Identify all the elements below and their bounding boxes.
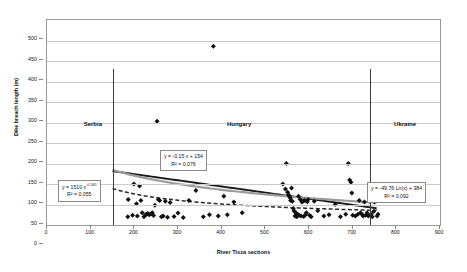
country-label-ukraine: Ukraine — [394, 121, 416, 127]
y-tick-label: 0 — [34, 240, 37, 246]
y-tick-label: 200 — [28, 158, 37, 164]
y-tick-mark — [39, 243, 43, 244]
y-tick-mark — [39, 202, 43, 203]
country-label-hungary: Hungary — [227, 121, 251, 127]
scatter-point — [211, 44, 216, 49]
y-tick-label: 350 — [28, 97, 37, 103]
scatter-point — [240, 210, 245, 215]
y-tick-label: 500 — [28, 35, 37, 41]
gridline — [47, 164, 440, 165]
scatter-point — [126, 197, 131, 202]
scatter-point — [349, 191, 354, 196]
gridline — [47, 82, 440, 83]
equation-annotation-left-box: y = 1510 x-0.565R² = 0.055 — [58, 180, 101, 202]
equation-text: y = -0.15 x + 154 — [164, 153, 203, 159]
y-tick-label: 300 — [28, 117, 37, 123]
y-tick-label: 150 — [28, 179, 37, 185]
gridline — [47, 41, 440, 42]
y-tick-label: 100 — [28, 199, 37, 205]
y-tick-mark — [39, 120, 43, 121]
equation-exponent: -0.565 — [86, 183, 96, 187]
x-tick-label: 0 — [45, 229, 48, 235]
x-tick-label: 400 — [216, 229, 225, 235]
x-tick-label: 600 — [304, 229, 313, 235]
scatter-point — [163, 199, 168, 204]
equation-annotation-middle-box: y = -0.15 x + 154R² = 0.076 — [160, 150, 207, 171]
y-tick-label: 450 — [28, 56, 37, 62]
trendline-linear — [113, 171, 377, 208]
scatter-point — [327, 212, 332, 217]
y-tick-mark — [39, 223, 43, 224]
scatter-point — [165, 215, 170, 220]
scatter-point — [125, 214, 130, 219]
equation-annotation-right-box: y = -49.76 Ln(x) + 384R² = 0.092 — [367, 182, 426, 203]
x-tick-label: 700 — [347, 229, 356, 235]
scatter-point — [201, 214, 206, 219]
scatter-point — [321, 213, 326, 218]
x-tick-label: 200 — [129, 229, 138, 235]
r-squared-text: R² = 0.055 — [62, 191, 97, 199]
x-axis-tick-labels: 0100200300400500600700800900 — [46, 229, 441, 241]
scatter-point — [135, 213, 140, 218]
scatter-point — [181, 215, 186, 220]
equation-text: y = -49.76 Ln(x) + 384 — [371, 185, 422, 191]
scatter-point — [225, 212, 230, 217]
y-tick-mark — [39, 161, 43, 162]
y-tick-mark — [39, 100, 43, 101]
x-axis-title: River Tisza sections — [46, 249, 441, 255]
scatter-point — [207, 212, 212, 217]
r-squared-text: R² = 0.076 — [164, 161, 203, 169]
x-tick-label: 100 — [85, 229, 94, 235]
x-tick-label: 800 — [391, 229, 400, 235]
r-squared-text: R² = 0.092 — [371, 193, 422, 201]
scatter-point — [193, 188, 198, 193]
gridline — [47, 102, 440, 103]
y-tick-mark — [39, 38, 43, 39]
country-label-serbia: Serbia — [84, 121, 102, 127]
country-divider — [113, 69, 114, 225]
y-tick-mark — [39, 79, 43, 80]
scatter-point — [338, 214, 343, 219]
y-tick-label: 250 — [28, 138, 37, 144]
equation-text: y = 1510 x — [62, 184, 86, 190]
y-tick-mark — [39, 59, 43, 60]
scatter-point — [130, 213, 135, 218]
x-tick-label: 500 — [260, 229, 269, 235]
y-axis-tick-labels: 050100150200250300350400450500 — [12, 19, 43, 226]
scatter-point — [138, 198, 143, 203]
gridline — [47, 143, 440, 144]
chart-container: Dike breach length (m) 05010015020025030… — [0, 0, 467, 272]
y-tick-mark — [39, 182, 43, 183]
scatter-point — [216, 213, 221, 218]
y-tick-label: 50 — [31, 220, 37, 226]
x-tick-label: 900 — [435, 229, 444, 235]
y-tick-mark — [39, 141, 43, 142]
scatter-point — [343, 212, 348, 217]
scatter-point — [221, 194, 226, 199]
scatter-point — [172, 214, 177, 219]
gridline — [47, 205, 440, 206]
scatter-point — [176, 211, 181, 216]
scatter-point — [289, 186, 294, 191]
x-tick-label: 300 — [173, 229, 182, 235]
y-tick-label: 400 — [28, 76, 37, 82]
gridline — [47, 61, 440, 62]
